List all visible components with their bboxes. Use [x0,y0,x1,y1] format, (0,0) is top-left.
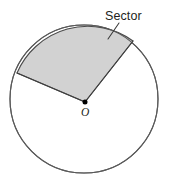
sector-diagram-svg: Sector O [0,0,170,186]
center-label: O [81,106,90,118]
sector-label: Sector [105,9,142,23]
center-point-dot [83,100,88,105]
sector-diagram-figure: Sector O [0,0,170,186]
